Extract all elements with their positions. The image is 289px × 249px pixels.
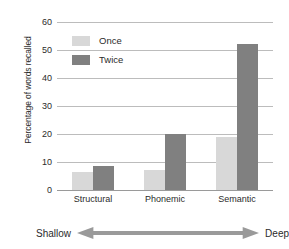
y-tick-label-50: 50 — [42, 45, 52, 55]
legend-item-once: Once — [72, 31, 123, 50]
y-tick-label-40: 40 — [42, 73, 52, 83]
y-axis-title: Percentage of words recalled — [23, 5, 33, 175]
bar-chart-figure: Percentage of words recalled 01020304050… — [0, 0, 289, 249]
depth-continuum-annotation: Shallow Deep — [0, 222, 289, 244]
y-tick-label-0: 0 — [47, 185, 52, 195]
bar-group-phonemic — [129, 22, 201, 190]
y-tick-label-20: 20 — [42, 129, 52, 139]
double-arrow-icon — [77, 226, 259, 240]
bar-semantic-once — [216, 137, 237, 190]
y-tick-label-30: 30 — [42, 101, 52, 111]
legend-label-twice: Twice — [99, 54, 123, 65]
x-tick-label-semantic: Semantic — [218, 194, 256, 204]
x-tick-label-structural: Structural — [74, 194, 113, 204]
legend-label-once: Once — [99, 35, 122, 46]
bar-structural-once — [72, 172, 93, 190]
gridline-0 — [57, 190, 273, 191]
bar-semantic-twice — [237, 44, 258, 190]
x-tick-label-phonemic: Phonemic — [145, 194, 185, 204]
bar-phonemic-twice — [165, 134, 186, 190]
y-tick-label-10: 10 — [42, 157, 52, 167]
deep-label: Deep — [265, 228, 289, 239]
y-tick-label-60: 60 — [42, 17, 52, 27]
legend-item-twice: Twice — [72, 50, 123, 69]
bar-structural-twice — [93, 166, 114, 190]
legend-swatch-twice — [72, 55, 90, 65]
bar-phonemic-once — [144, 170, 165, 190]
legend-swatch-once — [72, 36, 90, 46]
bar-group-semantic — [201, 22, 273, 190]
chart-legend: Once Twice — [72, 31, 123, 69]
shallow-label: Shallow — [36, 228, 71, 239]
